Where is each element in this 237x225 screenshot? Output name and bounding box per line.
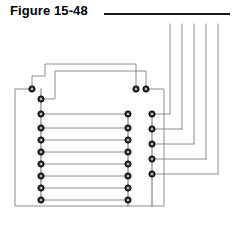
node-right-1-center [151,113,153,115]
node-middle-5-center [127,163,129,165]
node-middle-3-center [127,139,129,141]
node-left-6-center [40,163,42,165]
node-left-9-center [40,199,42,201]
node-middle-4-center [127,151,129,153]
node-middle-6-center [127,175,129,177]
right-node-routes-group [152,114,218,174]
node-left-8-center [40,187,42,189]
horizontal-rungs-group [41,114,128,200]
node-right-5-center [151,173,153,175]
node-left-offset-center [31,88,33,90]
node-right-4-center [151,158,153,160]
node-left-3-center [40,127,42,129]
node-middle-top-pair-2-center [145,88,147,90]
node-left-7-center [40,175,42,177]
node-left-5-center [40,151,42,153]
node-middle-1-center [127,113,129,115]
stepped-wires-group [32,64,146,99]
node-right-2-center [151,128,153,130]
node-left-1-center [40,98,42,100]
node-middle-top-pair-1-center [135,88,137,90]
node-right-3-center [151,143,153,145]
top-vertical-lines-group [170,24,218,174]
upper-step-wire-b [41,71,146,99]
node-middle-7-center [127,187,129,189]
connector-nodes-group [29,86,155,203]
node-left-2-center [40,113,42,115]
node-left-4-center [40,139,42,141]
node-middle-8-center [127,199,129,201]
node-middle-2-center [127,127,129,129]
upper-step-wire-a [32,64,136,89]
figure-page: Figure 15-48 [0,0,237,225]
wiring-schematic-diagram [0,0,237,225]
